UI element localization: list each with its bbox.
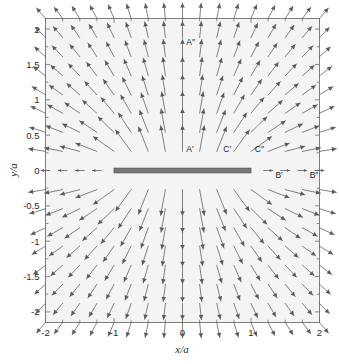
vector-arrow bbox=[320, 126, 336, 132]
y-axis-title: y/a bbox=[7, 163, 19, 178]
vector-arrow bbox=[320, 303, 330, 313]
vector-arrow bbox=[320, 27, 330, 37]
vector-field-plot: -2-1012 21.510.50-0.5-1-1.5-2 A″A′C′C″B′… bbox=[0, 0, 339, 364]
point-label-b-5: B″ bbox=[310, 170, 319, 180]
y-tick-label: -1 bbox=[31, 236, 39, 247]
vector-arrow bbox=[54, 7, 62, 18]
point-label-a-1: A′ bbox=[186, 144, 194, 154]
vector-arrow bbox=[320, 246, 334, 254]
vector-arrow bbox=[234, 4, 239, 19]
vector-arrow bbox=[162, 323, 167, 338]
vector-arrow bbox=[90, 323, 97, 336]
vector-arrow bbox=[35, 284, 46, 294]
point-label-b-4: B′ bbox=[275, 170, 283, 180]
x-tick-label: -1 bbox=[110, 327, 118, 338]
vector-arrow bbox=[198, 323, 203, 338]
figure-container: -2-1012 21.510.50-0.5-1-1.5-2 A″A′C′C″B′… bbox=[0, 0, 339, 364]
charged-plate bbox=[114, 168, 251, 173]
vector-arrow bbox=[320, 8, 329, 18]
x-tick-label: -2 bbox=[41, 327, 49, 338]
x-axis-title: x/a bbox=[174, 343, 189, 355]
vector-arrow bbox=[72, 6, 80, 18]
vector-arrow bbox=[320, 147, 337, 152]
vector-arrow bbox=[285, 323, 293, 335]
vector-arrow bbox=[320, 265, 332, 274]
vector-arrow bbox=[198, 3, 203, 18]
vector-arrow bbox=[320, 189, 337, 194]
vector-arrow bbox=[29, 147, 46, 152]
vector-arrow bbox=[268, 323, 275, 336]
vector-arrow bbox=[320, 67, 332, 76]
vector-arrow bbox=[144, 323, 149, 338]
vector-arrow bbox=[180, 3, 185, 18]
vector-arrow bbox=[320, 209, 336, 215]
vector-arrow bbox=[320, 106, 335, 113]
vector-arrow bbox=[217, 3, 222, 18]
vector-arrow bbox=[302, 7, 310, 18]
vector-arrow bbox=[144, 3, 149, 18]
vector-arrow bbox=[35, 47, 46, 57]
vector-arrow bbox=[268, 5, 275, 18]
vector-arrow bbox=[162, 3, 167, 18]
vector-arrow bbox=[90, 5, 97, 18]
vector-arrow bbox=[72, 323, 80, 335]
point-label-c-2: C′ bbox=[223, 144, 231, 154]
x-tick-label: 2 bbox=[317, 327, 322, 338]
point-label-c-3: C″ bbox=[255, 144, 264, 154]
vector-arrow bbox=[126, 323, 131, 338]
vector-arrow bbox=[126, 4, 131, 19]
vector-arrow bbox=[217, 323, 222, 338]
vector-arrow bbox=[108, 5, 114, 19]
vector-arrow bbox=[234, 323, 239, 338]
point-label-a-0: A″ bbox=[186, 37, 195, 47]
x-tick-label: 1 bbox=[248, 327, 253, 338]
vector-arrow bbox=[54, 323, 62, 334]
vector-arrow bbox=[302, 323, 310, 334]
vector-arrow bbox=[31, 228, 46, 235]
vector-arrow bbox=[320, 47, 331, 57]
vector-arrow bbox=[320, 87, 334, 95]
vector-arrow bbox=[29, 189, 46, 194]
vector-arrow bbox=[320, 228, 335, 235]
vector-arrow bbox=[285, 6, 293, 18]
y-tick-label: 0 bbox=[34, 165, 39, 176]
y-tick-label: 1 bbox=[34, 94, 39, 105]
y-tick-label: -0.5 bbox=[23, 200, 39, 211]
vector-arrow bbox=[320, 284, 331, 294]
vector-arrow bbox=[251, 5, 257, 19]
vector-arrow bbox=[37, 8, 46, 18]
vector-arrow bbox=[31, 106, 46, 113]
vector-arrow bbox=[32, 246, 46, 254]
y-tick-label: 0.5 bbox=[26, 130, 39, 141]
